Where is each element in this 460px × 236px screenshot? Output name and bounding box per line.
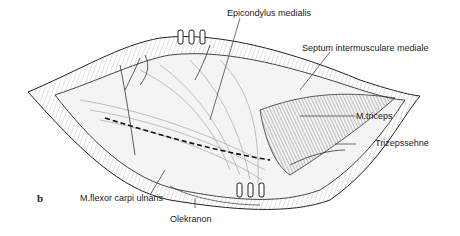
retractor-top (178, 30, 205, 44)
retractor-bottom (237, 183, 264, 197)
label-epicondylus-medialis: Epicondylus medialis (227, 8, 311, 18)
anatomy-figure: Epicondylus medialis Septum intermuscula… (0, 0, 460, 236)
label-m-flexor-carpi-ulnaris: M.flexor carpi ulnaris (80, 193, 163, 203)
label-olekranon: Olekranon (170, 214, 212, 224)
label-septum-intermusculare-mediale: Septum intermusculare mediale (302, 43, 429, 53)
panel-letter: b (37, 192, 43, 204)
label-trizepssehne: Trizepssehne (375, 138, 429, 148)
label-m-triceps: M.triceps (356, 111, 393, 121)
